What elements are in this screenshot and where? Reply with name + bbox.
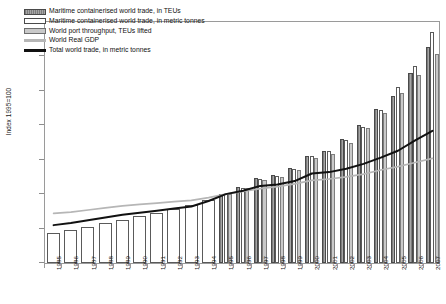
x-tick-mark: [285, 264, 286, 268]
x-tick-label: 2007: [434, 256, 441, 270]
x-tick-mark: [216, 264, 217, 268]
legend-item-label: World port throughput, TEUs lifted: [49, 28, 152, 35]
legend-item: Maritime containerised world trade, in m…: [24, 17, 205, 27]
x-tick-mark: [302, 264, 303, 268]
x-tick-mark: [406, 264, 407, 268]
legend-item-label: Total world trade, in metric tonnes: [49, 47, 151, 54]
legend-item: World port throughput, TEUs lifted: [24, 26, 205, 36]
chart-container: Index 1995=100 0.050.0100.0150.0200.0250…: [0, 0, 446, 304]
gdp-line-swatch: [24, 39, 46, 42]
x-tick-mark: [96, 264, 97, 268]
plot-area: [44, 21, 440, 264]
x-tick-mark: [61, 264, 62, 268]
chart-legend: Maritime containerised world trade, in T…: [24, 7, 205, 55]
x-tick-mark: [388, 264, 389, 268]
port-bar-swatch: [24, 28, 46, 34]
x-tick-mark: [233, 264, 234, 268]
x-tick-mark: [44, 264, 45, 268]
x-tick-mark: [165, 264, 166, 268]
x-tick-mark: [268, 264, 269, 268]
legend-item: World Real GDP: [24, 36, 205, 46]
line-world-real-gdp: [54, 158, 433, 213]
x-tick-mark: [337, 264, 338, 268]
x-tick-mark: [319, 264, 320, 268]
x-tick-mark: [199, 264, 200, 268]
legend-item-label: Maritime containerised world trade, in m…: [49, 18, 205, 25]
legend-item: Maritime containerised world trade, in T…: [24, 7, 205, 17]
x-tick-mark: [78, 264, 79, 268]
tonnes-bar-swatch: [24, 18, 46, 24]
legend-item-label: World Real GDP: [49, 37, 99, 44]
x-tick-mark: [113, 264, 114, 268]
x-tick-mark: [354, 264, 355, 268]
line-total-world-trade: [54, 131, 433, 225]
x-tick-mark: [423, 264, 424, 268]
x-tick-mark: [251, 264, 252, 268]
teu-bar-swatch: [24, 9, 46, 15]
y-axis-title: Index 1995=100: [5, 47, 12, 177]
lines-layer: [45, 22, 441, 263]
legend-item-label: Maritime containerised world trade, in T…: [49, 8, 181, 15]
x-tick-mark: [182, 264, 183, 268]
x-tick-mark: [147, 264, 148, 268]
x-tick-mark: [130, 264, 131, 268]
trade-line-swatch: [24, 49, 46, 52]
legend-item: Total world trade, in metric tonnes: [24, 45, 205, 55]
x-tick-mark: [371, 264, 372, 268]
